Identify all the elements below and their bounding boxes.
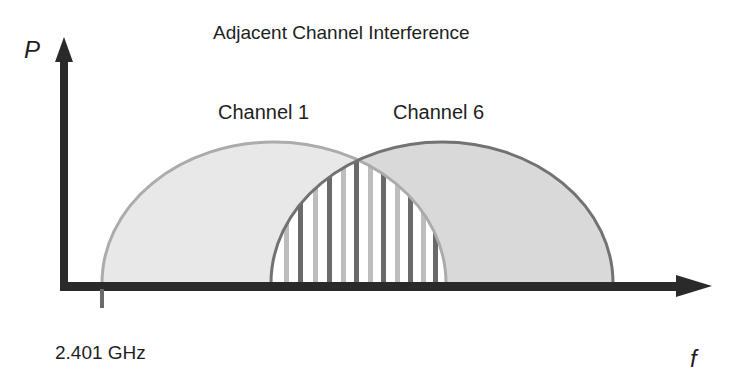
adjacent-channel-interference-diagram: Adjacent Channel Interference Channel 1 … xyxy=(0,0,746,381)
channel-1-label: Channel 1 xyxy=(218,101,309,124)
x-axis-arrow-icon xyxy=(676,275,712,297)
start-frequency-label: 2.401 GHz xyxy=(55,342,146,364)
y-axis-arrow-icon xyxy=(55,37,73,62)
frequency-tick xyxy=(100,289,104,308)
diagram-canvas xyxy=(0,0,746,381)
y-axis xyxy=(55,37,73,288)
channel-6-label: Channel 6 xyxy=(393,101,484,124)
y-axis-label: P xyxy=(24,36,40,64)
x-axis-label: f xyxy=(690,345,697,373)
diagram-title: Adjacent Channel Interference xyxy=(213,22,470,44)
